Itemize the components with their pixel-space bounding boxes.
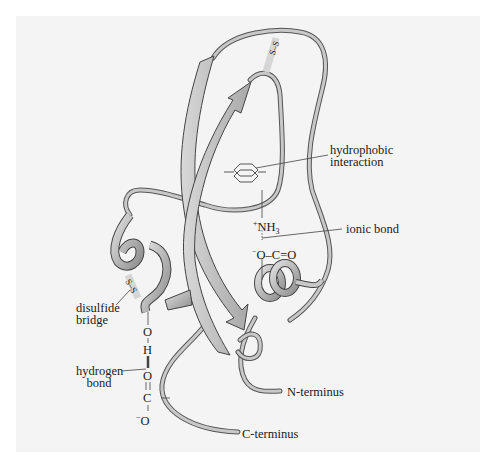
- carboxylate-oxygen: −O: [136, 412, 150, 427]
- benzene-ring-icon: [224, 164, 266, 182]
- protein-ribbon-diagram: [0, 0, 499, 468]
- label-c-terminus: C-terminus: [242, 428, 298, 440]
- label-ionic-bond: ionic bond: [346, 223, 399, 235]
- alpha-helix-right: [258, 263, 322, 298]
- carboxylate-group: −O–C=O: [252, 246, 296, 261]
- label-hydrophobic-interaction: hydrophobic interaction: [330, 144, 393, 168]
- ammonium-group: +NH3: [253, 218, 280, 238]
- hydrogen-atom: H: [143, 344, 152, 356]
- hydroxyl-oxygen: O: [143, 326, 152, 338]
- carbonyl-oxygen: O: [143, 370, 152, 382]
- carboxyl-carbon: C: [143, 392, 151, 404]
- label-n-terminus: N-terminus: [287, 386, 344, 398]
- coil-backbone: [126, 30, 330, 432]
- alpha-helix-left: [115, 215, 192, 312]
- label-hydrogen-bond: hydrogen bond: [76, 365, 122, 389]
- label-disulfide-bridge: disulfide bridge: [76, 302, 120, 326]
